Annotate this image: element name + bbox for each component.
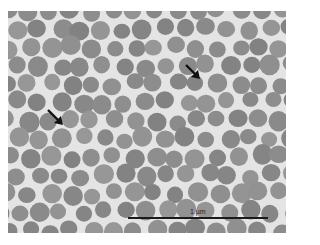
scale-bar [128, 217, 268, 219]
arrow-icon-right [184, 63, 204, 83]
arrow-icon-left [46, 108, 66, 128]
scale-bar-label: 1 µm [190, 208, 206, 216]
